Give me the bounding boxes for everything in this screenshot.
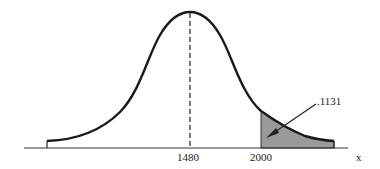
annotation-arrow-line [272,104,316,134]
tick-label-mean: 1480 [177,151,199,163]
chart-canvas [0,0,380,169]
x-axis-label: x [356,151,362,163]
tick-label-cutoff: 2000 [250,151,272,163]
area-annotation-label: .1131 [317,95,341,107]
normal-distribution-chart: 1480 2000 x .1131 [0,0,380,169]
